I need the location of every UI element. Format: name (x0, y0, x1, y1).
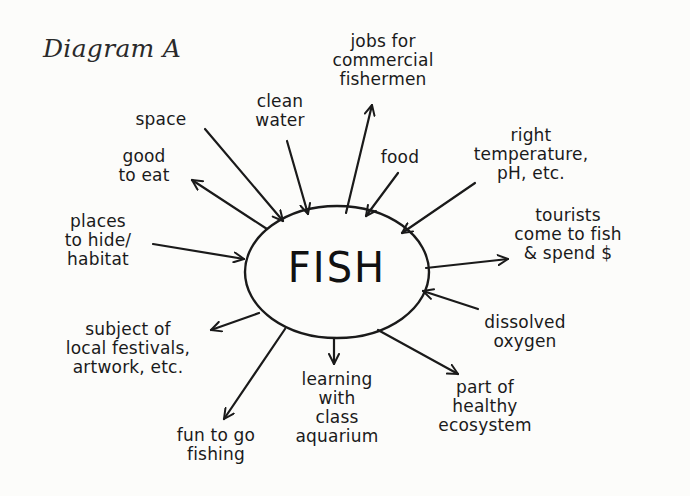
arrow-tourists (426, 259, 508, 268)
arrow-subject-of-festivals (211, 313, 259, 330)
arrow-dissolved-oxygen (423, 291, 478, 309)
node-learning: learning with class aquarium (282, 370, 392, 446)
node-food: food (367, 148, 433, 167)
node-right-temperature: right temperature, pH, etc. (446, 126, 616, 183)
arrow-places-to-hide (153, 244, 244, 259)
node-subject-of-festivals: subject of local festivals, artwork, etc… (38, 320, 218, 377)
node-dissolved-oxygen: dissolved oxygen (472, 313, 578, 351)
node-tourists: tourists come to fish & spend $ (500, 206, 636, 263)
node-places-to-hide: places to hide/ habitat (50, 212, 146, 269)
node-fun-fishing: fun to go fishing (156, 426, 276, 464)
arrow-right-temperature (402, 183, 475, 233)
arrow-healthy-ecosystem (378, 330, 458, 374)
node-space: space (118, 110, 204, 129)
node-jobs: jobs for commercial fishermen (328, 32, 438, 89)
node-good-to-eat: good to eat (106, 147, 182, 185)
node-clean-water: clean water (242, 92, 318, 130)
diagram-canvas: Diagram A (0, 0, 690, 496)
arrow-fun-fishing (224, 329, 285, 419)
arrow-space (205, 129, 283, 221)
node-healthy-ecosystem: part of healthy ecosystem (410, 378, 560, 435)
arrow-food (366, 173, 398, 216)
center-node-label: FISH (270, 242, 404, 292)
arrow-clean-water (287, 141, 308, 214)
